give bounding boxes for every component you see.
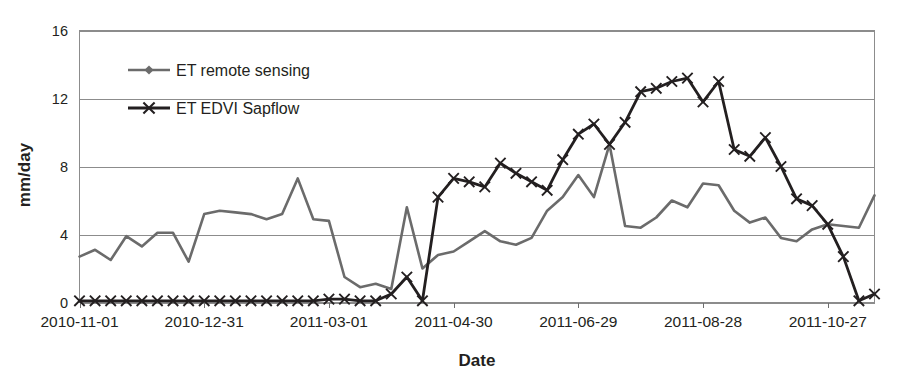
x-tick-label-2: 2011-03-01 xyxy=(290,313,368,330)
y-tick-label-16: 16 xyxy=(52,23,68,39)
y-tick-label-0: 0 xyxy=(60,295,68,311)
x-tick-label-6: 2011-10-27 xyxy=(789,313,867,330)
y-axis-title: mm/day xyxy=(15,142,34,207)
x-tick-label-3: 2011-04-30 xyxy=(415,313,494,330)
x-tick-label-0: 2010-11-01 xyxy=(40,313,118,330)
line-chart: 0481216 2010-11-012010-12-312011-03-0120… xyxy=(0,0,917,375)
x-tick-label-4: 2011-06-29 xyxy=(539,313,617,330)
chart-container: 0481216 2010-11-012010-12-312011-03-0120… xyxy=(0,0,917,375)
x-tick-label-1: 2010-12-31 xyxy=(165,313,244,330)
x-axis-title: Date xyxy=(459,351,496,370)
y-tick-label-4: 4 xyxy=(60,227,68,243)
legend-label: ET EDVI Sapflow xyxy=(176,100,300,117)
y-tick-label-8: 8 xyxy=(60,159,68,175)
legend-label: ET remote sensing xyxy=(176,62,310,79)
x-tick-label-5: 2011-08-28 xyxy=(664,313,742,330)
y-tick-label-12: 12 xyxy=(52,91,68,107)
